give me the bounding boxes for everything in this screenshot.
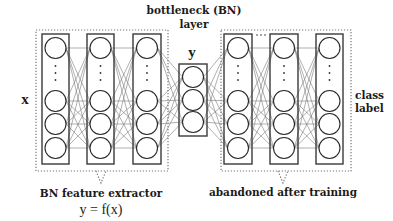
neuron-node	[45, 38, 66, 59]
neuron-node	[319, 91, 340, 112]
neuron-node	[319, 114, 340, 135]
neuron-node	[45, 91, 66, 112]
neuron-node	[228, 138, 249, 159]
vertical-ellipsis-dot	[55, 65, 57, 67]
neuron-node	[137, 38, 158, 59]
vertical-ellipsis-dot	[283, 79, 285, 81]
neuron-node	[183, 112, 204, 133]
neuron-node	[137, 114, 158, 135]
feature-extractor-label: BN feature extractor	[40, 187, 163, 199]
neuron-node	[90, 138, 111, 159]
vertical-ellipsis-dot	[146, 72, 148, 74]
vertical-ellipsis-dot	[146, 65, 148, 67]
neuron-node	[137, 91, 158, 112]
vertical-ellipsis-dot	[329, 65, 331, 67]
vertical-ellipsis-dot	[283, 72, 285, 74]
neuron-node	[228, 91, 249, 112]
neuron-node	[274, 91, 295, 112]
vertical-ellipsis-dot	[237, 72, 239, 74]
neuron-node	[228, 38, 249, 59]
feature-extractor-formula: y = f(x)	[80, 202, 123, 218]
bottleneck-title-line2: layer	[179, 18, 209, 30]
output-label-line2: label	[355, 102, 384, 114]
vertical-ellipsis-dot	[100, 79, 102, 81]
neuron-node	[183, 90, 204, 111]
vertical-ellipsis-dot	[100, 65, 102, 67]
neuron-node	[90, 38, 111, 59]
bottleneck-title-line1: bottleneck (BN)	[147, 4, 242, 16]
vertical-ellipsis-dot	[237, 65, 239, 67]
vertical-ellipsis-dot	[146, 79, 148, 81]
neuron-node	[183, 67, 204, 88]
feature-extractor-callout-pointer	[96, 171, 106, 183]
bottleneck-output-label: y	[188, 44, 196, 60]
neuron-node	[274, 38, 295, 59]
vertical-ellipsis-dot	[283, 65, 285, 67]
neuron-node	[90, 114, 111, 135]
abandoned-label: abandoned after training	[209, 186, 358, 198]
neuron-node	[319, 138, 340, 159]
bottleneck-network-diagram: bottleneck (BN) layer y x class label BN…	[0, 0, 393, 221]
neuron-node	[274, 114, 295, 135]
neuron-node	[45, 114, 66, 135]
output-label-line1: class	[355, 89, 384, 101]
vertical-ellipsis-dot	[55, 79, 57, 81]
horizontal-ellipsis	[256, 34, 266, 36]
neuron-node	[228, 114, 249, 135]
neuron-node	[319, 38, 340, 59]
abandoned-callout-pointer	[278, 171, 288, 183]
neuron-node	[90, 91, 111, 112]
vertical-ellipsis-dot	[329, 72, 331, 74]
neuron-node	[274, 138, 295, 159]
vertical-ellipsis-dot	[329, 79, 331, 81]
vertical-ellipsis-dot	[237, 79, 239, 81]
neuron-node	[45, 138, 66, 159]
input-label: x	[21, 91, 29, 107]
vertical-ellipsis-dot	[100, 72, 102, 74]
neuron-node	[137, 138, 158, 159]
vertical-ellipsis-dot	[55, 72, 57, 74]
